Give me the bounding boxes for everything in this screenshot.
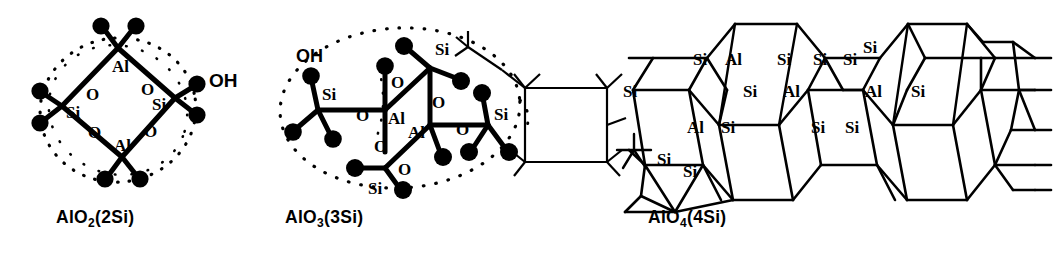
atom-label-o-right: O bbox=[456, 120, 469, 139]
caption-formula: AlO bbox=[648, 207, 680, 227]
caption-alo2-2si: AlO2(2Si) bbox=[56, 209, 134, 229]
figure-root: Al Al Si bbox=[0, 0, 1054, 261]
atom-label-o-upper-left: O bbox=[86, 85, 99, 104]
site-label-si-2: Si bbox=[777, 50, 791, 69]
atom-label-o-lower-left: O bbox=[88, 123, 101, 142]
site-label-si-1: Si bbox=[693, 50, 707, 69]
site-label-al-3: Al bbox=[865, 82, 882, 101]
caption-subscript: 3 bbox=[317, 216, 324, 230]
atom-si-left: Si bbox=[31, 82, 80, 131]
framework-wireframe bbox=[617, 24, 1051, 212]
atom-label-oh: OH bbox=[296, 46, 323, 66]
atom-label-si-top: Si bbox=[435, 40, 449, 59]
atom-label-o-lower-right: O bbox=[144, 122, 157, 141]
atom-label-si-left: Si bbox=[322, 85, 336, 104]
atom-si-left: Si OH bbox=[284, 46, 342, 148]
site-label-si-9: Si bbox=[721, 118, 735, 137]
atom-label-o-right-upper: O bbox=[432, 93, 445, 112]
caption-suffix: (3Si) bbox=[324, 207, 363, 227]
caption-subscript: 4 bbox=[680, 216, 687, 230]
site-label-si-5: Si bbox=[863, 38, 877, 57]
site-label-si-13: Si bbox=[683, 162, 697, 181]
atom-o-terminal-lower bbox=[434, 148, 452, 166]
caption-alo4-4si: AlO4(4Si) bbox=[648, 209, 726, 229]
site-label-si-3: Si bbox=[813, 50, 827, 69]
site-label-si-12: Si bbox=[657, 150, 671, 169]
atom-label-al-bottom: Al bbox=[114, 136, 131, 155]
caption-suffix: (4Si) bbox=[687, 207, 726, 227]
site-label-si-10: Si bbox=[811, 118, 825, 137]
site-label-si-6: Si bbox=[623, 82, 637, 101]
atom-label-o-upper-right: O bbox=[141, 80, 154, 99]
atom-label-si-left: Si bbox=[66, 103, 80, 122]
atom-label-oh: OH bbox=[209, 70, 238, 91]
site-label-al-4: Al bbox=[687, 118, 704, 137]
site-label-al-1: Al bbox=[725, 50, 742, 69]
site-label-si-7: Si bbox=[743, 82, 757, 101]
caption-alo3-3si: AlO3(3Si) bbox=[285, 209, 363, 229]
atom-label-o-left: O bbox=[356, 106, 369, 125]
atom-label-al-2: Al bbox=[408, 123, 425, 142]
atom-label-al-top: Al bbox=[112, 57, 129, 76]
caption-formula: AlO bbox=[285, 207, 317, 227]
atom-label-al-1: Al bbox=[388, 109, 405, 128]
site-label-si-8: Si bbox=[911, 82, 925, 101]
atom-label-o-lower-left: O bbox=[374, 137, 387, 156]
site-label-si-11: Si bbox=[845, 118, 859, 137]
structure-alo2-2si: Al Al Si bbox=[0, 0, 286, 261]
site-label-si-4: Si bbox=[843, 50, 857, 69]
caption-subscript: 2 bbox=[88, 216, 95, 230]
atom-label-si-bottom: Si bbox=[368, 179, 382, 198]
atom-label-si-right: Si bbox=[494, 105, 508, 124]
atom-label-o-top: O bbox=[391, 73, 404, 92]
wireframe-cage-fragment bbox=[455, 31, 626, 176]
caption-formula: AlO bbox=[56, 207, 88, 227]
panel-alo2-2si: Al Al Si bbox=[0, 0, 286, 261]
caption-suffix: (2Si) bbox=[95, 207, 134, 227]
site-label-al-2: Al bbox=[783, 82, 800, 101]
atom-label-o-bottom: O bbox=[398, 160, 411, 179]
